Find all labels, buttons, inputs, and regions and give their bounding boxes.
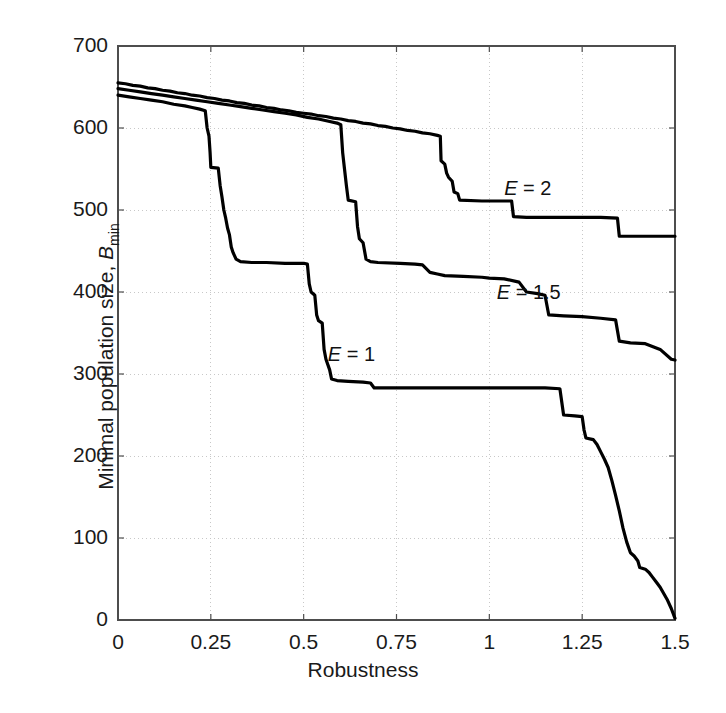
x-axis-label: Robustness: [0, 658, 726, 682]
y-axis-label-subscript: min: [106, 223, 122, 246]
x-tick-label: 0.25: [171, 630, 251, 654]
x-tick-label: 0: [78, 630, 158, 654]
gridlines: [118, 46, 675, 620]
y-tick-label: 600: [73, 115, 108, 139]
tick-marks: [118, 46, 675, 620]
y-axis-label: Minimal population size, Bmin: [94, 156, 121, 556]
x-tick-label: 1: [449, 630, 529, 654]
y-axis-label-symbol: B: [94, 245, 117, 259]
series-annotation-symbol: E: [497, 281, 510, 303]
x-axis-label-text: Robustness: [308, 658, 419, 681]
y-tick-label: 700: [73, 33, 108, 57]
series-annotation-value: = 1: [341, 343, 375, 365]
series-annotation-0: E = 2: [504, 177, 551, 200]
series-annotation-2: E = 1: [328, 343, 375, 366]
series-annotation-symbol: E: [328, 343, 341, 365]
series-annotation-symbol: E: [504, 177, 517, 199]
x-tick-label: 0.75: [357, 630, 437, 654]
series-annotation-value: = 1.5: [510, 281, 561, 303]
series-annotation-1: E = 1.5: [497, 281, 561, 304]
x-tick-label: 1.5: [635, 630, 715, 654]
curve-series-0: [118, 83, 675, 236]
x-tick-label: 1.25: [542, 630, 622, 654]
axis-frame: [118, 46, 675, 620]
curve-series-2: [118, 95, 675, 618]
series-annotation-value: = 2: [518, 177, 552, 199]
x-tick-label: 0.5: [264, 630, 344, 654]
chart-figure: 0100200300400500600700 00.250.50.7511.25…: [0, 0, 726, 713]
y-axis-label-text: Minimal population size,: [94, 259, 117, 489]
y-tick-label: 0: [96, 607, 108, 631]
